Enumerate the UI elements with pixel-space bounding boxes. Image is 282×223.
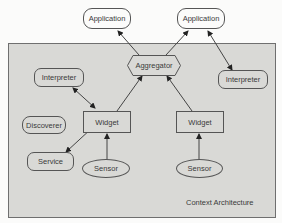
- sensor-right-node: Sensor: [176, 159, 223, 178]
- diagram-caption: Context Architecture: [186, 198, 254, 207]
- application-left-node: Application: [83, 8, 131, 29]
- aggregator-node: Aggregator: [127, 55, 181, 76]
- widget-left-node: Widget: [83, 111, 131, 133]
- discoverer-node: Discoverer: [22, 116, 66, 134]
- application-right-node: Application: [177, 8, 225, 29]
- interpreter-left-node: Interpreter: [34, 68, 84, 87]
- widget-right-node: Widget: [176, 111, 224, 133]
- edges-layer: [0, 0, 282, 223]
- service-node: Service: [27, 152, 74, 171]
- sensor-left-node: Sensor: [82, 159, 130, 178]
- interpreter-right-node: Interpreter: [218, 70, 268, 89]
